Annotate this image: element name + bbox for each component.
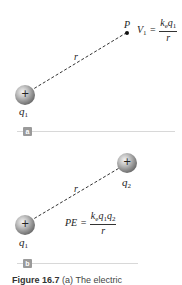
panel-label-a: a xyxy=(23,127,32,136)
point-label-p: P xyxy=(124,19,130,30)
distance-label-r-a: r xyxy=(74,51,78,62)
potential-equation: V1 = keq1 r xyxy=(137,18,177,43)
charge-label-q1-a: q1 xyxy=(19,105,28,119)
charge-label-q2-b: q2 xyxy=(122,176,131,190)
figure-caption: Figure 16.7 (a) The electric xyxy=(12,275,122,285)
panel-b-rule xyxy=(17,263,138,264)
panel-a-rule xyxy=(17,131,175,132)
charge-label-q1-b: q1 xyxy=(19,236,28,250)
plus-sign-icon: + xyxy=(21,218,29,229)
distance-line-a xyxy=(30,33,126,91)
distance-label-r-b: r xyxy=(74,183,78,194)
panel-label-b: b xyxy=(23,259,32,268)
potential-energy-equation: PE = keq1q2 r xyxy=(65,211,116,236)
plus-sign-icon: + xyxy=(123,156,131,167)
plus-sign-icon: + xyxy=(21,88,29,99)
point-p-dot xyxy=(125,31,129,35)
